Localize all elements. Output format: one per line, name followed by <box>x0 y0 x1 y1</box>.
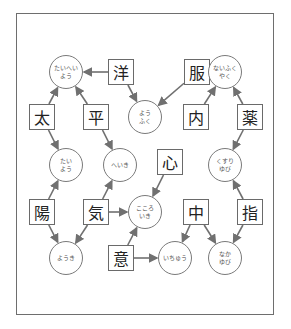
kanji-box-fuku: 服 <box>184 59 210 85</box>
reading-text: たいへいよう <box>54 64 78 80</box>
reading-circle-taiyou: たいよう <box>49 148 83 182</box>
arrow-naka-to-ichuu <box>182 225 190 242</box>
kanji-box-kokoro: 心 <box>157 149 183 175</box>
reading-circle-youfuku: ようふく <box>128 100 162 134</box>
kanji-box-you: 洋 <box>108 59 134 85</box>
reading-circle-taiheiyou: たいへいよう <box>49 55 83 89</box>
arrow-ki-to-heiki <box>103 181 112 199</box>
kanji-box-tai: 太 <box>29 104 55 130</box>
kanji-box-kusuri: 薬 <box>237 104 263 130</box>
arrow-kokoro-to-kokoroiki <box>153 175 163 196</box>
reading-circle-kusuriyubi: くすりゆび <box>208 148 242 182</box>
reading-text: なかゆび <box>219 250 231 266</box>
arrow-kusuri-to-naifukuyaku <box>234 88 243 104</box>
reading-text: ようき <box>57 254 75 262</box>
kanji-box-i: 意 <box>108 245 134 271</box>
reading-text: へいき <box>111 161 129 169</box>
kanji-box-nai: 内 <box>183 104 209 130</box>
arrow-hei-to-heiki <box>103 130 112 149</box>
arrow-hei-to-taiheiyou <box>76 87 87 104</box>
arrow-yubi-to-kusuriyubi <box>233 181 243 199</box>
kanji-box-youhi: 陽 <box>29 199 55 225</box>
reading-text: くすりゆび <box>216 157 234 173</box>
reading-text: ないふくやく <box>213 64 237 80</box>
reading-circle-youki: ようき <box>49 241 83 275</box>
arrow-yubi-to-nakayubi <box>234 225 243 242</box>
reading-circle-kokoroiki: こころいき <box>128 195 162 229</box>
reading-circle-naifukuyaku: ないふくやく <box>208 55 242 89</box>
kanji-box-ki: 気 <box>83 199 109 225</box>
arrow-you-to-youfuku <box>128 85 137 101</box>
arrow-youhi-to-youki <box>49 225 58 242</box>
reading-text: たいよう <box>60 157 72 173</box>
arrow-youhi-to-taiyou <box>49 181 58 199</box>
reading-circle-nakayubi: なかゆび <box>208 241 242 275</box>
arrow-tai-to-taiyou <box>49 130 58 149</box>
arrow-nai-to-naifukuyaku <box>204 87 215 104</box>
arrow-tai-to-taiheiyou <box>49 88 58 104</box>
arrow-ki-to-youki <box>76 225 88 243</box>
reading-circle-heiki: へいき <box>103 148 137 182</box>
kanji-box-hei: 平 <box>83 104 109 130</box>
reading-text: こころいき <box>136 204 154 220</box>
arrow-i-to-kokoroiki <box>128 228 137 245</box>
reading-circle-ichuu: いちゅう <box>158 241 192 275</box>
arrow-naka-to-nakayubi <box>204 225 215 243</box>
reading-text: ようふく <box>139 109 151 125</box>
kanji-box-naka: 中 <box>183 199 209 225</box>
arrow-fuku-to-youfuku <box>159 83 184 105</box>
arrow-kusuri-to-kusuriyubi <box>233 130 243 149</box>
kanji-box-yubi: 指 <box>237 199 263 225</box>
reading-text: いちゅう <box>163 254 187 262</box>
connector-arrows <box>0 0 291 329</box>
